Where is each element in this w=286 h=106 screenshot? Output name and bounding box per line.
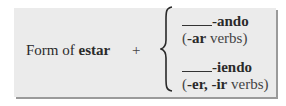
blank-line — [182, 13, 212, 26]
option-note: (-ar verbs) — [182, 30, 249, 47]
option-ending-line: -iendo — [182, 59, 269, 76]
ending-ando: -ando — [212, 13, 249, 29]
option-er-ir-verbs: -iendo (-er, -ir verbs) — [182, 59, 269, 93]
plus-operator: + — [132, 42, 140, 59]
note-verb-type: -ar — [187, 30, 206, 46]
ending-iendo: -iendo — [212, 59, 252, 75]
estar-verb: estar — [79, 42, 111, 58]
option-ar-verbs: -ando (-ar verbs) — [182, 13, 249, 47]
blank-line — [182, 59, 212, 72]
note-verb-type: -er, -ir — [187, 76, 227, 92]
curly-brace-icon — [160, 6, 174, 92]
option-ending-line: -ando — [182, 13, 249, 30]
form-of-estar-label: Form of estar — [26, 42, 110, 59]
option-note: (-er, -ir verbs) — [182, 76, 269, 93]
note-rest: verbs) — [206, 30, 247, 46]
note-rest: verbs) — [227, 76, 268, 92]
form-of-prefix: Form of — [26, 42, 79, 58]
